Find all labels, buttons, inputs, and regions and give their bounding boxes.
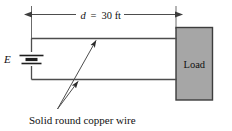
leader-lines-group (58, 41, 97, 110)
dimension-value: 30 ft (102, 10, 122, 21)
dimension-label-group: d = 30 ft (81, 10, 122, 21)
dimension-symbol: d (81, 10, 87, 21)
source-label: E (3, 53, 11, 65)
conductor-group (32, 39, 177, 80)
caption-label: Solid round copper wire (29, 114, 136, 126)
circuit-diagram-svg: d = 30 ft Load E Solid (0, 0, 232, 131)
dimension-equals: = (91, 10, 97, 21)
leader-line-to-bottom-conductor (58, 82, 79, 110)
load-label: Load (184, 59, 206, 70)
battery-symbol (20, 56, 44, 64)
leader-line-to-top-conductor (58, 41, 97, 110)
circuit-figure: d = 30 ft Load E Solid (0, 0, 232, 131)
load-box-group: Load (176, 28, 213, 101)
